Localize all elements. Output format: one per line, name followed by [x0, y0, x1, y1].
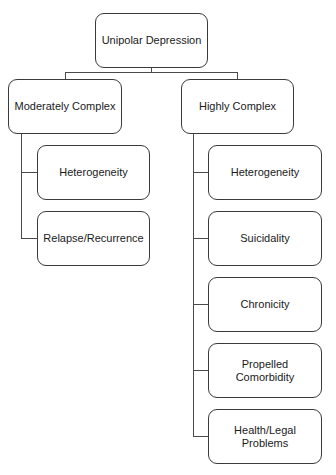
right-branch-5	[193, 436, 208, 437]
node-label: Health/Legal Problems	[227, 424, 303, 450]
node-label: Propelled Comorbidity	[231, 358, 299, 384]
right-branch-4	[193, 370, 208, 371]
node-root: Unipolar Depression	[95, 13, 208, 68]
node-relapse-recurrence: Relapse/Recurrence	[37, 211, 150, 266]
node-chronicity: Chronicity	[208, 277, 322, 332]
right-branch-2	[193, 238, 208, 239]
node-label: Unipolar Depression	[102, 34, 202, 47]
node-label: Heterogeneity	[231, 166, 300, 179]
node-label: Moderately Complex	[15, 100, 116, 113]
node-propelled-comorbidity: Propelled Comorbidity	[208, 343, 322, 398]
node-label: Relapse/Recurrence	[43, 232, 143, 245]
node-high-heterogeneity: Heterogeneity	[208, 145, 322, 200]
connector-root-horizontal	[65, 72, 238, 73]
connector-to-moderate	[65, 72, 66, 79]
node-suicidality: Suicidality	[208, 211, 322, 266]
node-health-legal-problems: Health/Legal Problems	[208, 409, 322, 464]
node-moderate-heterogeneity: Heterogeneity	[37, 145, 150, 200]
node-label: Heterogeneity	[59, 166, 128, 179]
left-branch-2	[21, 238, 37, 239]
node-label: Chronicity	[241, 298, 290, 311]
connector-to-high	[237, 72, 238, 79]
right-branch-3	[193, 304, 208, 305]
node-highly-complex: Highly Complex	[181, 79, 294, 134]
node-moderately-complex: Moderately Complex	[8, 79, 122, 134]
node-label: Suicidality	[240, 232, 290, 245]
right-trunk	[193, 133, 194, 437]
left-branch-1	[21, 172, 37, 173]
right-branch-1	[193, 172, 208, 173]
left-trunk	[21, 133, 22, 239]
node-label: Highly Complex	[199, 100, 276, 113]
